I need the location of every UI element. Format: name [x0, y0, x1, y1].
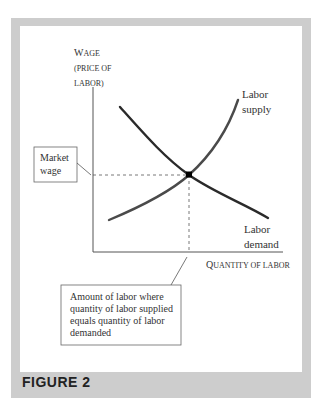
supply-label-line1: Labor: [242, 88, 269, 100]
y-axis-label-line3: LABOR): [74, 79, 104, 88]
y-axis-label-line1: WAGE: [74, 47, 100, 58]
demand-label-line1: Labor: [244, 223, 271, 235]
equilibrium-quantity-line3: equals quantity of labor: [70, 315, 165, 326]
x-axis-label: QUANTITY OF LABOR: [206, 259, 290, 270]
supply-label-line2: supply: [242, 103, 272, 115]
market-wage-line2: wage: [40, 165, 62, 176]
market-wage-leader: [77, 163, 91, 175]
equilibrium-point: [186, 172, 192, 178]
equilibrium-quantity-line4: demanded: [70, 327, 111, 338]
figure-caption-label: FIGURE 2: [22, 374, 91, 390]
equilibrium-quantity-leader: [171, 257, 187, 285]
equilibrium-quantity-line2: quantity of labor supplied: [70, 303, 173, 314]
labor-demand-curve: [120, 107, 268, 218]
equilibrium-quantity-line1: Amount of labor where: [70, 291, 164, 302]
y-axis-label-line2: (PRICE OF: [74, 64, 112, 73]
market-wage-line1: Market: [40, 152, 69, 163]
demand-label-line2: demand: [244, 238, 279, 250]
